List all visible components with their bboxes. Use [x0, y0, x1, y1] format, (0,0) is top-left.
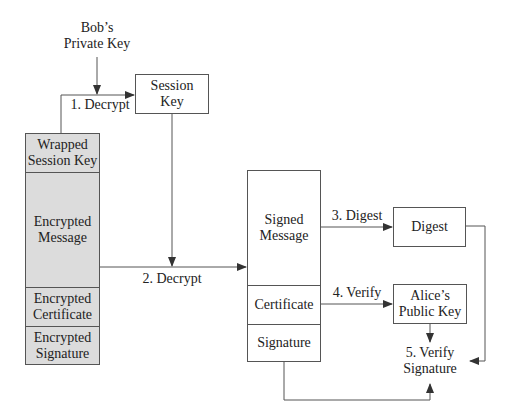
encrypted-signature-cell: Encrypted Signature	[25, 326, 100, 365]
label-line: Public Key	[399, 304, 462, 320]
label-line: Certificate	[33, 307, 92, 323]
label-line: Message	[38, 230, 87, 246]
signature-cell: Signature	[247, 324, 321, 362]
label-line: Alice’s	[410, 288, 450, 304]
digest-box: Digest	[393, 207, 466, 247]
label-line: Encrypted	[34, 291, 92, 307]
label-line: Session	[151, 78, 194, 94]
label-line: Bob’s	[57, 20, 137, 36]
label-line: Signature	[257, 335, 311, 351]
label-line: Encrypted	[34, 214, 92, 230]
label-line: Signed	[265, 212, 304, 228]
label-line: Certificate	[254, 297, 313, 313]
step4-verify-label: 4. Verify	[326, 285, 388, 301]
label-line: Session Key	[28, 153, 98, 169]
label-line: Signature	[390, 361, 470, 377]
encrypted-certificate-cell: Encrypted Certificate	[25, 287, 100, 327]
label-line: Private Key	[57, 36, 137, 52]
step1-decrypt-label: 1. Decrypt	[65, 97, 135, 113]
step2-decrypt-label: 2. Decrypt	[136, 271, 208, 287]
wrapped-session-key-cell: Wrapped Session Key	[25, 133, 100, 173]
label-line: 5. Verify	[390, 345, 470, 361]
verify-signature-label: 5. Verify Signature	[390, 345, 470, 377]
label-line: Encrypted	[34, 330, 92, 346]
certificate-cell: Certificate	[247, 285, 321, 325]
encrypted-message-cell: Encrypted Message	[25, 172, 100, 288]
label-line: Signature	[36, 346, 90, 362]
step3-digest-label: 3. Digest	[326, 208, 388, 224]
alices-public-key-box: Alice’s Public Key	[393, 284, 467, 324]
signed-message-cell: Signed Message	[247, 170, 321, 286]
label-line: Wrapped	[37, 137, 88, 153]
label-line: Message	[260, 228, 309, 244]
label-line: Key	[160, 94, 183, 110]
bobs-private-key-label: Bob’s Private Key	[57, 20, 137, 52]
label-line: Digest	[411, 219, 448, 235]
session-key-box: Session Key	[135, 74, 209, 114]
